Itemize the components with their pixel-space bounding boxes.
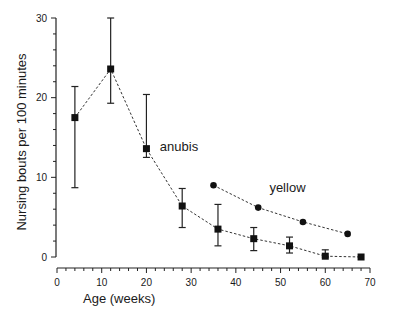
- series-yellow: yellow: [210, 180, 351, 237]
- x-axis: 010203040506070: [54, 268, 376, 288]
- y-tick-label: 30: [36, 13, 48, 24]
- x-tick-label: 50: [275, 277, 287, 288]
- data-point-circle: [210, 182, 217, 189]
- y-tick-label: 10: [36, 172, 48, 183]
- series-label-anubis: anubis: [160, 139, 199, 154]
- nursing-bouts-chart: 0102030 010203040506070 Nursing bouts pe…: [0, 0, 393, 322]
- x-tick-label: 30: [186, 277, 198, 288]
- data-point-square: [214, 226, 221, 233]
- x-tick-label: 20: [141, 277, 153, 288]
- data-point-square: [71, 114, 78, 121]
- data-point-circle: [344, 231, 351, 238]
- data-point-square: [322, 253, 329, 260]
- plot-area: anubisyellow: [71, 18, 364, 261]
- y-axis: 0102030: [36, 13, 56, 263]
- x-tick-label: 10: [96, 277, 108, 288]
- data-point-square: [143, 145, 150, 152]
- x-tick-label: 60: [320, 277, 332, 288]
- x-axis-title: Age (weeks): [83, 291, 155, 306]
- y-tick-label: 0: [41, 252, 47, 263]
- x-tick-label: 70: [364, 277, 376, 288]
- data-point-square: [107, 65, 114, 72]
- data-point-square: [358, 254, 365, 261]
- series-label-yellow: yellow: [269, 180, 306, 195]
- series-anubis: anubis: [71, 18, 364, 261]
- x-tick-label: 0: [54, 277, 60, 288]
- data-point-square: [179, 203, 186, 210]
- data-point-circle: [300, 219, 307, 226]
- data-point-circle: [255, 204, 262, 211]
- data-point-square: [286, 242, 293, 249]
- data-point-square: [250, 235, 257, 242]
- x-tick-label: 40: [230, 277, 242, 288]
- y-axis-title: Nursing bouts per 100 minutes: [14, 53, 29, 231]
- y-tick-label: 20: [36, 92, 48, 103]
